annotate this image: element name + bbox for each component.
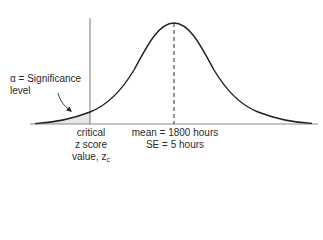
alpha-label-line1: α = Significance [10, 73, 81, 85]
mean-se-label: mean = 1800 hours SE = 5 hours [124, 127, 226, 151]
rejection-region-shade [35, 112, 90, 124]
critical-label-line1: critical [60, 127, 122, 139]
critical-label-prefix: value, z [72, 151, 106, 162]
alpha-significance-label: α = Significance level [10, 73, 81, 97]
critical-z-score-label: critical z score value, zc [60, 127, 122, 163]
alpha-label-line2: level [10, 85, 81, 97]
critical-label-line2: z score [60, 139, 122, 151]
mean-label-line1: mean = 1800 hours [124, 127, 226, 139]
mean-label-line2: SE = 5 hours [124, 139, 226, 151]
critical-label-subscript: c [106, 156, 110, 163]
critical-label-line3: value, zc [60, 151, 122, 163]
